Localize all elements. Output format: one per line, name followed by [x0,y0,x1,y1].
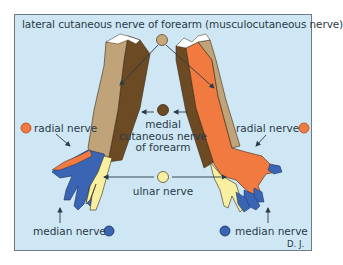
radial-nerve-label-left: radial nerve [34,123,97,134]
median-nerve-label-right: median nerve [235,226,308,237]
ulnar-nerve-label: ulnar nerve [113,186,213,197]
ulnar-marker [158,172,169,183]
median-marker-right [220,226,230,236]
radial-marker-left [21,123,31,133]
median-nerve-label-left: median nerve [33,226,106,237]
radial-nerve-label-right: radial nerve [236,123,299,134]
medial-cutaneous-label: medial cutaneous nerve of forearm [113,119,213,153]
medial-cutaneous-marker [158,105,169,116]
artist-signature: D. J. [287,240,304,249]
medial-label-line3: of forearm [113,142,213,153]
medial-label-line1: medial [113,119,213,130]
lateral-cutaneous-label: lateral cutaneous nerve of forearm (musc… [22,19,343,30]
radial-marker-right [299,123,309,133]
lateral-cutaneous-marker [157,35,168,46]
medial-label-line2: cutaneous nerve [113,131,213,142]
